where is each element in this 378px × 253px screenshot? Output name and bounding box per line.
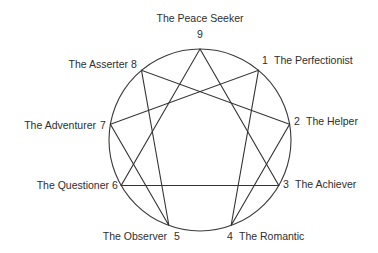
label-8-number: 8 [131, 58, 137, 70]
label-8-name: The Asserter [68, 58, 128, 70]
label-6-number: 6 [112, 179, 118, 191]
label-9-number: 9 [197, 28, 203, 40]
label-4-number: 4 [227, 230, 233, 242]
label-6-name: The Questioner [37, 179, 110, 191]
label-2-number: 2 [294, 115, 300, 127]
label-5-name: The Observer [103, 230, 168, 242]
label-7-number: 7 [100, 119, 106, 131]
label-5-number: 5 [174, 230, 180, 242]
enneagram-circle [109, 49, 291, 231]
label-7-name: The Adventurer [24, 119, 96, 131]
hexad-1-4-2-8-5-7 [110, 70, 289, 225]
enneagram-diagram: The Peace Seeker 9 1 The Perfectionist 2… [0, 0, 378, 253]
label-4-name: The Romantic [239, 230, 304, 242]
label-1-number: 1 [262, 54, 268, 66]
label-3-number: 3 [283, 178, 289, 190]
label-2-name: The Helper [306, 115, 358, 127]
label-1-name: The Perfectionist [274, 54, 353, 66]
triangle-9-3-6 [121, 49, 279, 186]
label-9-name: The Peace Seeker [157, 12, 244, 24]
label-3-name: The Achiever [295, 178, 357, 190]
